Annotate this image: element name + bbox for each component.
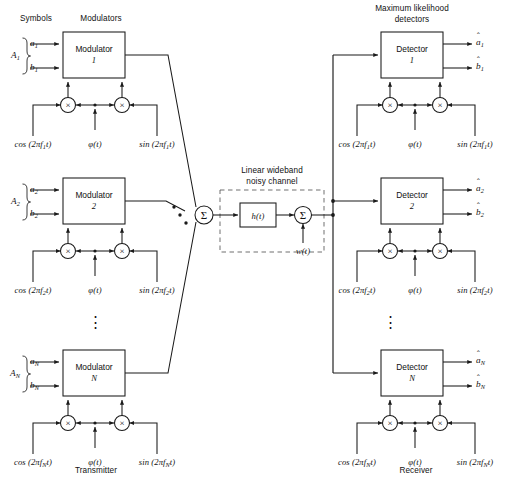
output-label-aN-hat: ˆaN: [476, 355, 485, 367]
bus-junction-channel: [331, 213, 335, 217]
output-label-b2-hat: ˆb2: [476, 207, 484, 219]
heading-detectors-line1: Maximum likelihood: [375, 4, 449, 14]
channel-adder-glyph: Σ: [300, 209, 306, 221]
det-carrier-sin-label-2: sin (2πf2t): [457, 285, 493, 296]
input-label-bN: bN: [30, 380, 39, 392]
det-carrier-sin-label-n: sin (2πfNt): [457, 457, 494, 468]
sin-2-feed: [130, 251, 158, 282]
det-carrier-cos-label-1: cos (2πf1t): [339, 139, 376, 150]
det2-phase-junction: [413, 249, 416, 252]
transmitter-ellipsis: ⋮: [88, 313, 103, 331]
det2-cos-feed: [357, 251, 383, 282]
det1-cos-feed: [357, 105, 383, 136]
combiner-sigma-glyph: Σ: [201, 209, 207, 221]
channel-group: [213, 190, 333, 252]
input-label-b1: b1: [30, 62, 38, 74]
phase-n-junction: [93, 421, 96, 424]
det-multiplier-glyph-1-sin: ×: [437, 100, 442, 110]
diagram-canvas: [0, 0, 507, 488]
heading-modulators: Modulators: [80, 14, 122, 24]
carrier-sin-label-n: sin (2πfNt): [139, 457, 176, 468]
output-label-a2-hat: ˆa2: [476, 183, 484, 195]
output-label-bN-hat: ˆbN: [476, 379, 485, 391]
detn-phase-junction: [413, 421, 416, 424]
input-label-a1: a1: [30, 38, 38, 50]
group-label-AN: AN: [10, 368, 20, 380]
detector-2-label: Detector 2: [396, 190, 428, 213]
det-carrier-cos-label-2: cos (2πf2t): [339, 285, 376, 296]
cos-2-feed: [33, 251, 61, 282]
cos-n-feed: [33, 423, 61, 454]
input-label-aN: aN: [30, 356, 39, 368]
detector-1-label: Detector 1: [396, 44, 428, 67]
carrier-cos-label-n: cos (2πfNt): [14, 457, 52, 468]
carrier-sin-label-1: sin (2πf1t): [139, 139, 175, 150]
detn-sin-feed: [448, 423, 476, 454]
cos-1-feed: [33, 105, 61, 136]
heading-symbols: Symbols: [20, 14, 52, 24]
phase-label-n: φ(t): [88, 457, 101, 468]
multiplier-glyph-2-cos: ×: [65, 246, 70, 256]
modulator-1-output-line: [125, 55, 196, 207]
det1-sin-feed: [448, 105, 476, 136]
det-multiplier-glyph-2-sin: ×: [437, 246, 442, 256]
output-label-a1-hat: ˆa1: [476, 37, 484, 49]
phase-label-1: φ(t): [88, 139, 101, 150]
det-phase-label-2: φ(t): [408, 285, 421, 296]
input-label-a2: a2: [30, 184, 38, 196]
detector-n-label: Detector N: [396, 362, 428, 385]
det-multiplier-glyph-n-cos: ×: [387, 418, 392, 428]
phase-label-2: φ(t): [88, 285, 101, 296]
multiplier-glyph-n-sin: ×: [119, 418, 124, 428]
modulator-n-group: [23, 222, 197, 454]
receiver-bus-group: [331, 55, 378, 373]
det-carrier-cos-label-n: cos (2πfNt): [338, 457, 376, 468]
multiplier-glyph-n-cos: ×: [65, 418, 70, 428]
multiplier-glyph-2-sin: ×: [119, 246, 124, 256]
channel-caption-line2: noisy channel: [246, 177, 297, 187]
det-multiplier-glyph-2-cos: ×: [387, 246, 392, 256]
carrier-sin-label-2: sin (2πf2t): [139, 285, 175, 296]
phase-1-junction: [93, 103, 96, 106]
output-label-b1-hat: ˆb1: [476, 61, 484, 73]
heading-detectors-line2: detectors: [395, 15, 430, 25]
modulator-1-label: Modulator 1: [75, 44, 112, 67]
det-carrier-sin-label-1: sin (2πf1t): [457, 139, 493, 150]
phase-2-junction: [93, 249, 96, 252]
group-label-A1: A1: [11, 50, 20, 62]
channel-noise-label: w(t): [296, 246, 310, 257]
carrier-cos-label-2: cos (2πf2t): [15, 285, 52, 296]
modulator-n-label: Modulator N: [75, 362, 112, 385]
carrier-cos-label-1: cos (2πf1t): [15, 139, 52, 150]
detn-cos-feed: [357, 423, 383, 454]
receiver-ellipsis: ⋮: [383, 313, 398, 331]
det2-sin-feed: [448, 251, 476, 282]
bus-junction-2: [331, 199, 335, 203]
det1-phase-junction: [413, 103, 416, 106]
input-label-b2: b2: [30, 208, 38, 220]
modulator-n-output-line: [125, 222, 196, 373]
sin-n-feed: [130, 423, 158, 454]
group-label-A2: A2: [11, 196, 20, 208]
det-multiplier-glyph-1-cos: ×: [387, 100, 392, 110]
modulator-2-output-line: [125, 201, 185, 211]
multiplier-glyph-1-cos: ×: [65, 100, 70, 110]
det-phase-label-n: φ(t): [408, 457, 421, 468]
det-phase-label-1: φ(t): [408, 139, 421, 150]
sin-1-feed: [130, 105, 158, 136]
channel-filter-label: h(t): [252, 211, 265, 222]
det-multiplier-glyph-n-sin: ×: [437, 418, 442, 428]
multiplier-glyph-1-sin: ×: [119, 100, 124, 110]
modulator-2-label: Modulator 2: [75, 190, 112, 213]
channel-caption-line1: Linear wideband: [241, 166, 303, 176]
